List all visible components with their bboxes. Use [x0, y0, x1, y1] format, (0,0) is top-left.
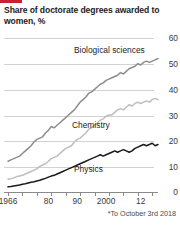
series-label-chemistry: Chemistry [72, 120, 110, 130]
xtick-label-90: 90 [73, 196, 82, 206]
xtick-1996 [95, 193, 96, 196]
series-label-physics: Physics [74, 164, 103, 174]
line-biological-sciences [8, 59, 158, 162]
xtick-label-80: 80 [44, 196, 53, 206]
plot-area: 60 50 40 30 20 10 0 19668090200012 Biolo… [0, 0, 180, 226]
xtick-1976 [37, 193, 38, 196]
xtick-2006 [123, 193, 124, 196]
chart-container: Share of doctorate degrees awarded to wo… [0, 0, 180, 226]
xtick-1986 [66, 193, 67, 196]
xtick-label-12: 12 [136, 196, 145, 206]
series-label-biological-sciences: Biological sciences [74, 45, 145, 55]
xtick-1971 [22, 193, 23, 196]
chart-footnote: *To October 3rd 2018 [108, 209, 176, 218]
xtick-label-1966: 1966 [0, 196, 17, 206]
xtick-label-2000: 2000 [97, 196, 116, 206]
xtick-2016 [152, 193, 153, 196]
